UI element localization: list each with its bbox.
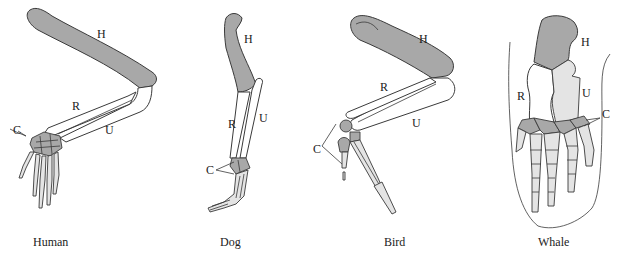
label-carpals: C bbox=[206, 164, 214, 176]
panel-bird: H R U C Bird bbox=[300, 0, 460, 267]
label-ulna: U bbox=[582, 87, 591, 99]
human-humerus bbox=[27, 8, 156, 88]
label-carpals: C bbox=[313, 143, 321, 155]
bird-phalanges bbox=[342, 140, 396, 214]
whale-radius bbox=[527, 64, 554, 124]
label-humerus: H bbox=[581, 36, 590, 48]
label-radius: R bbox=[228, 118, 236, 130]
dog-forelimb-illustration bbox=[180, 0, 300, 267]
dog-humerus bbox=[225, 14, 257, 93]
caption-whale: Whale bbox=[538, 236, 569, 248]
label-humerus: H bbox=[419, 33, 428, 45]
label-carpals: C bbox=[13, 124, 21, 136]
label-humerus: H bbox=[97, 28, 106, 40]
dog-phalanges bbox=[208, 170, 248, 212]
label-carpals: C bbox=[602, 108, 610, 120]
label-radius: R bbox=[380, 81, 388, 93]
whale-phalanges bbox=[516, 124, 594, 212]
whale-ulna bbox=[552, 60, 580, 124]
human-forelimb-illustration bbox=[0, 0, 180, 267]
label-radius: R bbox=[517, 90, 525, 102]
panel-dog: H R U C Dog bbox=[180, 0, 300, 267]
label-humerus: H bbox=[244, 33, 253, 45]
label-radius: R bbox=[72, 100, 80, 112]
bird-forelimb-illustration bbox=[300, 0, 460, 267]
whale-forelimb-illustration bbox=[460, 0, 619, 267]
human-phalanges bbox=[19, 152, 59, 208]
label-ulna: U bbox=[412, 117, 421, 129]
bird-humerus bbox=[351, 16, 454, 78]
panel-whale: H R U C Whale bbox=[460, 0, 619, 267]
caption-bird: Bird bbox=[384, 236, 405, 248]
label-ulna: U bbox=[259, 112, 268, 124]
panel-human: H R U C Human bbox=[0, 0, 180, 267]
label-ulna: U bbox=[105, 124, 114, 136]
caption-human: Human bbox=[33, 236, 68, 248]
caption-dog: Dog bbox=[220, 236, 241, 248]
